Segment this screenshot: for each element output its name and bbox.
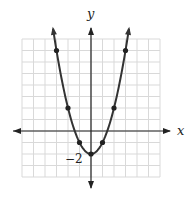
tick-label-neg2: −2	[65, 152, 83, 166]
data-point	[111, 105, 116, 110]
data-point	[77, 140, 82, 145]
x-axis-right-arrow-icon	[163, 128, 171, 134]
x-axis-label: x	[177, 123, 185, 138]
y-axis-up-arrow-icon	[88, 27, 94, 35]
curve-arrow-icon	[51, 27, 57, 35]
data-point	[100, 140, 105, 145]
data-point	[54, 48, 59, 53]
data-point	[123, 48, 128, 53]
data-point	[65, 105, 70, 110]
y-axis-label: y	[86, 6, 95, 21]
x-axis-left-arrow-icon	[13, 128, 21, 134]
axes: x y −2	[13, 6, 185, 189]
y-axis-down-arrow-icon	[88, 181, 94, 189]
curve-arrow-icon	[125, 27, 131, 35]
data-point	[88, 151, 93, 156]
parabola-graph: x y −2	[0, 0, 193, 198]
